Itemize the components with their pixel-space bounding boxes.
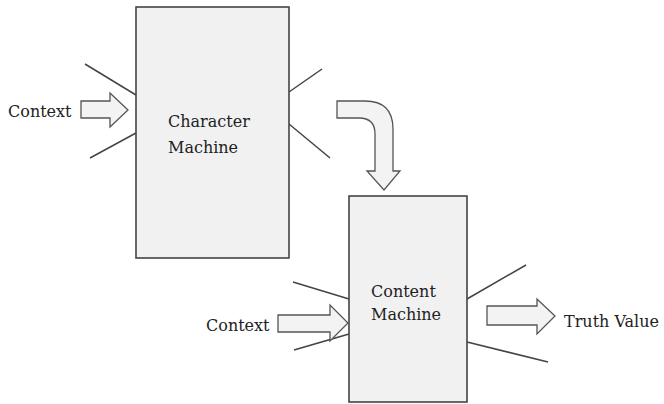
truth-value-label: Truth Value [564, 312, 659, 331]
context-input-arrow-bottom-icon [278, 305, 348, 341]
context-label-bottom: Context [206, 316, 270, 335]
content-machine-ray-left-top [293, 282, 349, 299]
character-machine-box [136, 7, 289, 258]
truth-value-output-arrow-icon [487, 299, 555, 334]
content-machine-ray-right-bottom [467, 342, 548, 362]
character-machine-ray-right-bottom [289, 124, 330, 158]
curved-down-arrow-icon [337, 101, 400, 190]
content-machine-label-line2: Machine [371, 305, 441, 324]
character-machine-ray-right-top [289, 69, 322, 92]
content-machine-ray-right-top [467, 265, 526, 299]
character-machine-ray-left-top [85, 64, 136, 95]
character-machine-ray-left-bottom [90, 133, 136, 158]
context-label-top: Context [8, 102, 72, 121]
machine-diagram: Character Machine Context Content Machin… [0, 0, 664, 404]
context-input-arrow-icon [81, 93, 128, 127]
character-machine-label-line2: Machine [168, 138, 238, 157]
content-machine-ray-left-bottom [294, 334, 349, 350]
content-machine-label-line1: Content [371, 282, 436, 301]
character-machine-label-line1: Character [168, 112, 250, 131]
